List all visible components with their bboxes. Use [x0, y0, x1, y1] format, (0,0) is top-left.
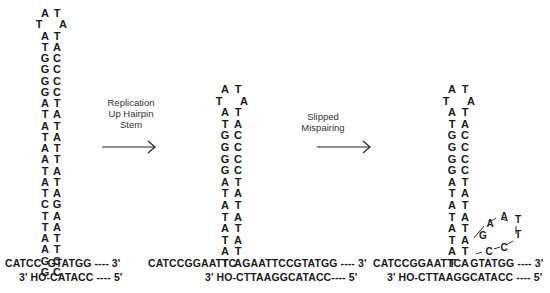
bulge-loop-lines: [0, 0, 550, 293]
